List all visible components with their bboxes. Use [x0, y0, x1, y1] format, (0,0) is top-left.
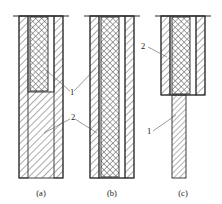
- wall-right-a: [54, 16, 63, 178]
- wall-left-b: [90, 16, 99, 178]
- callout-label-1-ab: 1: [70, 87, 74, 97]
- stem-c: [172, 95, 186, 178]
- core-b: [101, 17, 119, 177]
- core-a: [30, 17, 48, 91]
- wall-left-a: [19, 16, 28, 178]
- technical-diagram: 1 2 2 1 (a) (b) (c): [0, 0, 222, 204]
- wall-left-c: [161, 16, 170, 95]
- wall-inner-lower-a: [28, 91, 54, 178]
- caption-a: (a): [36, 188, 46, 198]
- wall-right-c: [196, 16, 205, 95]
- panel-b: [84, 16, 140, 178]
- caption-b: (b): [107, 188, 117, 198]
- core-c: [172, 17, 190, 94]
- wall-right-b: [125, 16, 134, 178]
- panel-a: [13, 16, 69, 178]
- callout-label-1-c: 1: [147, 126, 151, 136]
- callout-label-2-c: 2: [141, 41, 145, 51]
- caption-c: (c): [178, 188, 188, 198]
- panel-c: [155, 16, 211, 178]
- caption-group: (a) (b) (c): [36, 188, 188, 198]
- figure-container: 1 2 2 1 (a) (b) (c): [0, 0, 222, 204]
- callout-label-2-ab: 2: [71, 112, 75, 122]
